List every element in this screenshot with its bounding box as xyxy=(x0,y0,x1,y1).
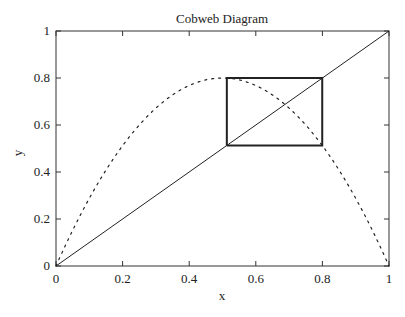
x-axis-label: x xyxy=(219,288,226,303)
y-tick-label: 0.2 xyxy=(34,211,50,226)
plot-series xyxy=(56,31,389,266)
x-tick-label: 0.4 xyxy=(181,271,198,286)
y-axis-label: y xyxy=(10,149,25,156)
x-tick-label: 0 xyxy=(53,271,60,286)
y-tick-label: 1 xyxy=(44,23,51,38)
y-tick-label: 0.8 xyxy=(34,70,50,85)
cobweb-chart: Cobweb Diagram 00.20.40.60.8100.20.40.60… xyxy=(0,0,405,317)
axis-ticks: 00.20.40.60.8100.20.40.60.81 xyxy=(34,23,393,286)
identity-line xyxy=(56,31,389,266)
x-tick-label: 1 xyxy=(386,271,393,286)
y-tick-label: 0.6 xyxy=(34,117,51,132)
x-tick-label: 0.2 xyxy=(114,271,130,286)
x-tick-label: 0.8 xyxy=(314,271,330,286)
chart-title: Cobweb Diagram xyxy=(176,11,268,26)
x-tick-label: 0.6 xyxy=(248,271,265,286)
y-tick-label: 0 xyxy=(44,258,51,273)
logistic-curve xyxy=(56,78,389,266)
y-tick-label: 0.4 xyxy=(34,164,51,179)
